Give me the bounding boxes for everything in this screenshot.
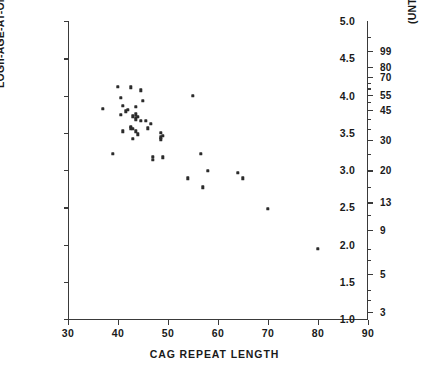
x-axis-tick-label: 30 [62,327,74,339]
y-axis-right-tick [368,51,373,52]
data-point [129,86,132,89]
data-point [134,118,137,121]
scatter-plot-figure: 1.01.52.02.53.03.54.04.55.0 998070554530… [0,0,429,371]
data-point [101,107,104,110]
data-point [186,176,189,179]
y-axis-right-tick [368,77,373,78]
data-point [139,89,142,92]
y-axis-left-tick [64,207,69,208]
x-axis-tick [118,320,119,325]
x-axis-tick-label: 80 [312,327,324,339]
data-point [121,104,124,107]
data-point [121,130,124,133]
y-axis-right-tick [368,67,373,68]
y-axis-left-tick-label: 1.5 [321,276,355,288]
y-axis-right-tick [368,110,373,111]
data-point [134,105,137,108]
data-point [159,138,162,141]
y-axis-right-minor-tick [368,154,371,155]
y-axis-left-tick-label: 5.0 [321,15,355,27]
y-axis-right-minor-tick [368,119,371,120]
data-point [241,176,244,179]
data-point [201,185,204,188]
x-axis-tick-label: 50 [162,327,174,339]
y-axis-right-minor-tick [368,83,371,84]
data-point [266,207,269,210]
x-axis-tick [68,320,69,325]
y-axis-right-tick-label: 3 [380,306,402,317]
y-axis-right-tick [368,230,373,231]
data-point [136,133,139,136]
y-axis-left-tick-label: 1.0 [321,313,355,325]
y-axis-left-tick [64,133,69,134]
y-axis-right-minor-tick [368,88,371,89]
y-axis-left-tick-label: 3.0 [321,164,355,176]
y-axis-left-tick [64,282,69,283]
x-axis-title: CAG REPEAT LENGTH [0,348,429,360]
y-axis-left-tick [64,245,69,246]
y-axis-right-minor-tick [368,290,371,291]
y-axis-right-tick-label: 30 [380,135,402,146]
data-point [199,152,202,155]
y-axis-right-tick [368,274,373,275]
y-axis-left-tick-label: 4.5 [321,52,355,64]
data-point [116,85,119,88]
y-axis-right-title: (UNTRANSFORMED) AGE AT ONSET OF HD [406,0,418,24]
y-axis-right-tick-label: 20 [380,165,402,176]
data-point [141,99,144,102]
y-axis-left-tick [64,58,69,59]
y-axis-right-minor-tick [368,102,371,103]
y-axis-right-tick-label: 5 [380,268,402,279]
y-axis-left-tick [64,170,69,171]
x-axis-tick [318,320,319,325]
y-axis-left-tick [64,96,69,97]
y-axis-right-minor-tick [368,187,371,188]
data-point [131,137,134,140]
data-point [206,169,209,172]
data-point [161,156,164,159]
y-axis-right-tick [368,312,373,313]
x-axis-tick-label: 40 [112,327,124,339]
data-point [316,247,319,250]
data-point [119,113,122,116]
y-axis-left-tick [64,21,69,22]
data-point [149,122,152,125]
y-axis-right-tick [368,95,373,96]
y-axis-right-minor-tick [368,37,371,38]
y-axis-right-minor-tick [368,300,371,301]
y-axis-right-tick-label: 99 [380,46,402,57]
y-axis-right-minor-tick [368,215,371,216]
y-axis-right-tick [368,140,373,141]
x-axis-tick [218,320,219,325]
data-point [161,134,164,137]
x-axis-tick [168,320,169,325]
x-axis-tick-label: 70 [262,327,274,339]
data-point [151,158,154,161]
y-axis-left-tick-label: 3.5 [321,127,355,139]
y-axis-left-title: LOGn-AGE-AT-ONSET OF HD [0,0,6,88]
x-axis-tick [268,320,269,325]
x-axis-tick-label: 60 [212,327,224,339]
y-axis-right-minor-tick [368,129,371,130]
y-axis-left-tick-label: 2.0 [321,239,355,251]
x-axis-tick-label: 90 [362,327,374,339]
x-axis-tick [368,320,369,325]
y-axis-left-tick-label: 2.5 [321,201,355,213]
data-point [111,152,114,155]
y-axis-right-tick [368,170,373,171]
y-axis-right-tick-label: 9 [380,224,402,235]
y-axis-right-tick-label: 55 [380,89,402,100]
y-axis-right-tick-label: 45 [380,104,402,115]
data-point [236,171,239,174]
y-axis-left-tick-label: 4.0 [321,90,355,102]
y-axis-right-minor-tick [368,249,371,250]
data-point [139,119,142,122]
data-point [146,127,149,130]
data-point [191,94,194,97]
y-axis-right-minor-tick [368,260,371,261]
y-axis-right-tick [368,202,373,203]
y-axis-right-tick-label: 70 [380,71,402,82]
data-point [126,108,129,111]
data-point [144,119,147,122]
data-point [119,96,122,99]
